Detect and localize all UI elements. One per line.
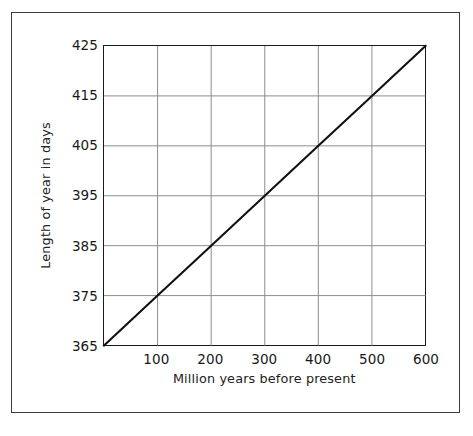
y-axis-tick-label: 425 xyxy=(72,37,98,53)
y-axis-title-text: Length of year in days xyxy=(38,122,53,268)
x-axis-tick-labels: 100200300400500600 xyxy=(103,351,427,371)
chart-page: Length of year in days 36537538539540541… xyxy=(0,0,473,436)
x-axis-tick-label: 600 xyxy=(413,351,439,367)
y-axis-tick-label: 385 xyxy=(72,238,98,254)
series-line xyxy=(104,46,426,346)
y-axis-tick-label: 415 xyxy=(72,87,98,103)
data-series-line xyxy=(104,46,426,346)
x-axis-tick-label: 300 xyxy=(251,351,277,367)
y-axis-tick-label: 365 xyxy=(72,338,98,354)
x-axis-tick-label: 200 xyxy=(197,351,223,367)
x-axis-tick-label: 400 xyxy=(305,351,331,367)
y-axis-tick-label: 375 xyxy=(72,288,98,304)
line-chart-figure: Length of year in days 36537538539540541… xyxy=(12,13,461,414)
y-axis-tick-label: 405 xyxy=(72,137,98,153)
x-axis-tick-label: 100 xyxy=(143,351,169,367)
y-axis-tick-labels: 365375385395405415425 xyxy=(62,45,98,347)
y-axis-tick-label: 395 xyxy=(72,187,98,203)
x-axis-tick-label: 500 xyxy=(359,351,385,367)
plot-area xyxy=(103,45,427,347)
figure-border: Length of year in days 36537538539540541… xyxy=(11,12,460,413)
x-axis-title: Million years before present xyxy=(103,371,427,386)
y-axis-title: Length of year in days xyxy=(35,45,55,347)
